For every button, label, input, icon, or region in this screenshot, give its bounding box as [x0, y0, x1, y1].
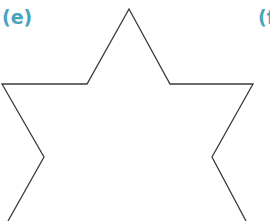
star-outline: [2, 9, 253, 221]
star-diagram: [0, 0, 270, 221]
